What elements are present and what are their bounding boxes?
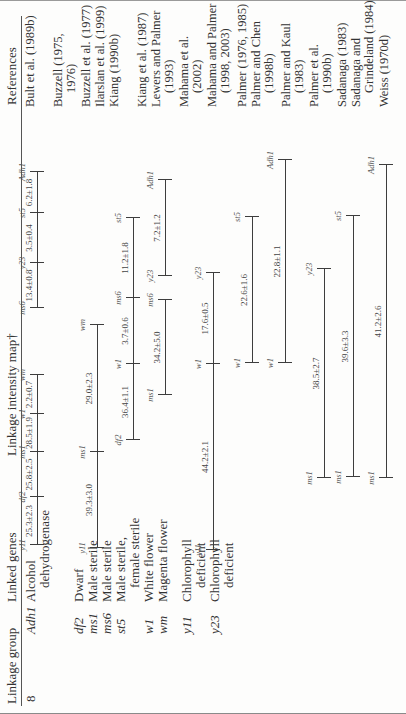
- gene-locus-tick: [245, 362, 259, 363]
- reference-item: Mahama et al.(2002): [178, 36, 204, 107]
- map-distance-label: 39.6±3.3: [340, 331, 350, 363]
- map-distance-label: 13.4±0.8: [24, 270, 34, 302]
- reference-item: Palmer and Chen(1998b): [250, 21, 276, 107]
- map-distance-label: 11.2±1.8: [120, 242, 130, 274]
- gene-locus-label: Adh1: [17, 163, 27, 181]
- map-distance-label: 41.2±2.6: [373, 306, 383, 338]
- gene-locus-label: Adh1: [366, 156, 376, 174]
- map-line: [285, 160, 286, 363]
- map-line: [37, 375, 38, 545]
- reference-item: Ilarslan et al. (1999): [94, 6, 107, 107]
- map-distance-label: 17.6±0.5: [200, 303, 210, 335]
- gene-locus-label: w1: [232, 358, 242, 368]
- gene-locus-tick: [206, 272, 220, 273]
- reference-item: Mahama and Palmer(1998, 2003): [206, 4, 232, 107]
- gene-locus-label: y23: [145, 270, 155, 282]
- gene-locus-label: ms6: [17, 301, 27, 315]
- gene-locus-label: w1: [265, 358, 275, 368]
- gene-locus-tick: [30, 212, 44, 213]
- map-distance-label: 44.2±2.1: [200, 441, 210, 473]
- gene-locus-tick: [245, 216, 259, 217]
- map-distance-label: 29.0±2.3: [84, 373, 94, 405]
- gene-symbol: st5: [114, 619, 128, 634]
- header-linkage-map: Linkage intensity map†: [4, 333, 20, 456]
- gene-locus-label: ms1: [145, 388, 155, 402]
- map-distance-label: 7.2±1.2: [152, 214, 162, 241]
- gene-locus-tick: [158, 394, 172, 395]
- gene-name-cont: dehydrogenase: [38, 510, 52, 588]
- gene-locus-label: ms1: [77, 445, 87, 459]
- reference-item: Palmer and Kaul(1983): [280, 23, 306, 107]
- gene-locus-label: ms6: [113, 291, 123, 305]
- header-rule: [21, 16, 22, 706]
- rotated-table-page: Linkage group Linked genes Linkage inten…: [0, 0, 406, 714]
- gene-locus-tick: [126, 297, 140, 298]
- gene-locus-label: st5: [17, 208, 27, 218]
- gene-locus-tick: [90, 451, 104, 452]
- reference-item: Kiang (1990b): [108, 34, 121, 107]
- map-line: [165, 180, 166, 276]
- gene-locus-tick: [30, 413, 44, 414]
- gene-locus-tick: [30, 496, 44, 497]
- gene-symbol: y11: [180, 616, 194, 634]
- gene-symbol: Adh1: [24, 607, 38, 634]
- header-linkage-group: Linkage group: [4, 628, 20, 704]
- gene-locus-tick: [126, 439, 140, 440]
- gene-locus-tick: [379, 477, 393, 478]
- gene-locus-tick: [90, 324, 104, 325]
- map-distance-label: 25.3±2.3: [24, 505, 34, 537]
- gene-locus-label: Adh1: [145, 171, 155, 189]
- map-distance-label: 39.3±3.0: [84, 484, 94, 516]
- gene-name: Dwarf: [72, 569, 86, 602]
- gene-locus-label: w1: [17, 409, 27, 419]
- gene-locus-tick: [158, 299, 172, 300]
- gene-locus-label: wm: [17, 369, 27, 381]
- gene-locus-label: ms1: [366, 471, 376, 485]
- gene-locus-label: w1: [193, 359, 203, 369]
- gene-locus-tick: [30, 307, 44, 308]
- map-line: [386, 165, 387, 478]
- map-line: [353, 216, 354, 477]
- reference-item: Sadanaga andGrindeland (1984): [350, 0, 376, 107]
- map-distance-label: 25.8±2.5: [24, 459, 34, 491]
- reference-item: Palmer (1976, 1985): [236, 4, 249, 107]
- gene-locus-tick: [30, 262, 44, 263]
- map-distance-label: 6.2±1.8: [24, 179, 34, 206]
- gene-locus-label: y23: [304, 263, 314, 275]
- reference-item: Buzzell (1975,1976): [52, 33, 78, 107]
- gene-locus-tick: [126, 363, 140, 364]
- gene-locus-label: y11: [17, 539, 27, 551]
- gene-locus-label: y11: [77, 542, 87, 554]
- header-references: References: [4, 47, 20, 105]
- gene-name-cont: female sterile: [128, 518, 142, 588]
- gene-locus-tick: [90, 547, 104, 548]
- gene-locus-tick: [30, 171, 44, 172]
- gene-locus-tick: [278, 159, 292, 160]
- page-border-right: [0, 0, 406, 1]
- map-distance-label: 2.2±0.7: [24, 381, 34, 408]
- map-distance-label: 3.7±0.6: [120, 317, 130, 344]
- map-distance-label: 22.8±1.1: [272, 246, 282, 278]
- gene-symbol: wm: [156, 616, 170, 634]
- gene-symbol: ms1: [86, 613, 100, 634]
- gene-locus-tick: [206, 549, 220, 550]
- map-line: [165, 300, 166, 395]
- linkage-group-value: 8: [24, 696, 38, 703]
- map-line: [324, 269, 325, 478]
- gene-locus-label: st5: [113, 213, 123, 223]
- gene-locus-label: wm: [77, 319, 87, 331]
- gene-symbol: w1: [142, 619, 156, 634]
- gene-locus-label: ms1: [304, 471, 314, 485]
- map-distance-label: 22.6±1.6: [239, 274, 249, 306]
- gene-locus-label: ms6: [145, 293, 155, 307]
- gene-name: Male sterile: [100, 540, 114, 602]
- gene-name: Male sterile,: [114, 537, 128, 602]
- gene-locus-tick: [346, 215, 360, 216]
- gene-symbol: ms6: [100, 613, 114, 634]
- map-distance-label: 38.5±2.7: [311, 358, 321, 390]
- map-distance-label: 28.5±1.9: [24, 417, 34, 449]
- reference-item: Buzzell et al. (1977): [80, 5, 93, 107]
- gene-name-cont: deficient: [222, 543, 236, 588]
- map-line: [133, 218, 134, 440]
- gene-locus-tick: [158, 275, 172, 276]
